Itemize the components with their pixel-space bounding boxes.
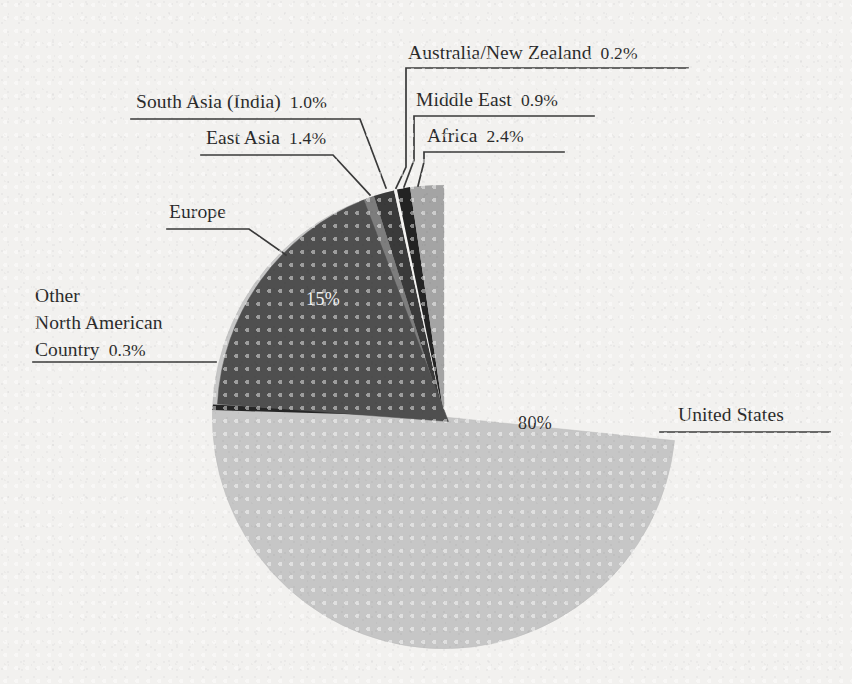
label-middle-east-text: Middle East [416,89,512,110]
label-europe-text: Europe [169,201,226,222]
label-east-asia-text: East Asia [206,127,280,148]
slice-value-united-states: 80% [518,413,552,434]
label-other-na-line1: Other [35,282,163,309]
label-other-na-line3: Country [35,339,100,360]
label-australia-new-zealand-text: Australia/New Zealand [408,42,591,63]
slice-value-europe: 15% [306,289,340,310]
leader-line-europe [167,229,286,255]
label-other-north-american-country: Other North American Country0.3% [35,282,163,364]
label-africa-text: Africa [427,125,477,146]
pie-slices [212,185,674,648]
label-africa: Africa2.4% [427,123,524,149]
slice-value-europe-text: 15% [306,289,340,309]
label-south-asia-india: South Asia (India)1.0% [136,89,327,115]
leader-line-east-asia [201,155,370,195]
label-africa-pct: 2.4% [486,126,523,146]
label-east-asia-pct: 1.4% [289,128,326,148]
label-united-states: United States [678,402,784,427]
label-south-asia-india-pct: 1.0% [290,92,327,112]
label-europe: Europe [169,199,226,224]
label-other-na-pct: 0.3% [109,340,146,360]
slice-value-united-states-text: 80% [518,413,552,433]
label-middle-east-pct: 0.9% [521,90,558,110]
label-middle-east: Middle East0.9% [416,87,558,113]
leader-line-africa [418,152,564,186]
label-south-asia-india-text: South Asia (India) [136,91,281,112]
label-east-asia: East Asia1.4% [206,125,326,151]
label-other-na-line2: North American [35,309,163,336]
label-australia-new-zealand: Australia/New Zealand0.2% [408,40,638,66]
label-australia-new-zealand-pct: 0.2% [600,43,637,63]
label-united-states-text: United States [678,404,784,425]
